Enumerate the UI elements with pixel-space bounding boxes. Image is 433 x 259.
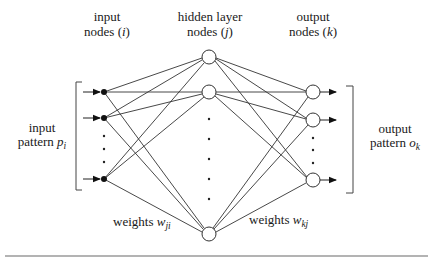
output-nodes-header: output nodes (k) [289, 9, 337, 39]
input-pattern-bracket [76, 82, 82, 190]
ellipsis-dot [312, 137, 314, 139]
input-header-line2: nodes (i) [84, 24, 130, 39]
hidden-header-line2: nodes (j) [187, 24, 233, 39]
output-pattern-bracket [346, 86, 353, 193]
ellipsis-dot [208, 138, 210, 140]
ellipsis-dot [208, 118, 210, 120]
hidden-node [202, 85, 216, 99]
weights-ji-label: weights wji [113, 214, 171, 231]
hidden-node [202, 50, 216, 64]
output-header-line2: nodes (k) [289, 24, 337, 39]
ellipsis-dot [312, 149, 314, 151]
output-node [306, 85, 320, 99]
output-layer [306, 85, 336, 187]
output-header-line1: output [296, 9, 330, 24]
hidden-layer [202, 50, 216, 241]
input-node [101, 115, 107, 121]
svg-text:pattern ok: pattern ok [370, 135, 421, 152]
svg-text:pattern pi: pattern pi [18, 134, 67, 151]
ellipsis-dot [208, 158, 210, 160]
input-pattern-label: input pattern pi [18, 120, 67, 151]
hidden-nodes-header: hidden layer nodes (j) [178, 9, 243, 39]
ellipsis-dot [103, 148, 105, 150]
output-pattern-label: output pattern ok [370, 121, 421, 152]
input-header-line1: input [94, 9, 121, 24]
weights-kj-label: weights wkj [249, 212, 309, 229]
input-node [101, 89, 107, 95]
ellipsis-dot [208, 198, 210, 200]
input-hidden-weights [104, 58, 204, 232]
input-node [101, 176, 107, 182]
svg-text:input: input [29, 120, 56, 135]
ellipsis-dot [103, 135, 105, 137]
output-node [306, 173, 320, 187]
hidden-output-weights [213, 58, 308, 232]
ellipsis-dot [103, 161, 105, 163]
input-nodes-header: input nodes (i) [84, 9, 130, 39]
input-layer [83, 89, 107, 182]
ellipsis-dot [312, 162, 314, 164]
svg-text:output: output [378, 121, 412, 136]
hidden-header-line1: hidden layer [178, 9, 243, 24]
output-node [306, 113, 320, 127]
neural-network-diagram: input nodes (i) hidden layer nodes (j) o… [0, 0, 433, 259]
ellipsis-dot [208, 178, 210, 180]
hidden-node [202, 227, 216, 241]
